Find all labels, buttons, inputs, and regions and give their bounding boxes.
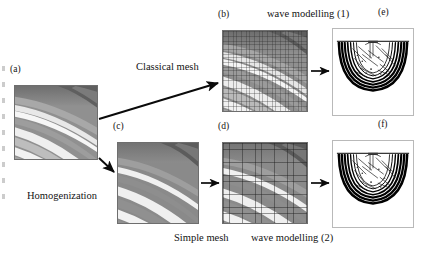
panel-e-wavefield-snapshot: [332, 28, 414, 116]
panel-c-homogenized-model: [117, 142, 199, 224]
label-homogenization: Homogenization: [27, 191, 97, 202]
velocity-model-bands-d: [223, 143, 307, 223]
label-wave-modelling-1: wave modelling (1): [267, 9, 349, 20]
label-wave-modelling-2: wave modelling (2): [251, 233, 333, 244]
velocity-model-bands-b: [223, 31, 307, 111]
panel-letter-f: (f): [378, 120, 388, 130]
velocity-model-bands-c: [118, 143, 198, 223]
panel-letter-d: (d): [218, 122, 229, 132]
wavefield-arcs-e: [333, 29, 413, 115]
panel-d-simple-mesh-model: [222, 142, 308, 224]
panel-letter-c: (c): [113, 122, 124, 132]
panel-letter-e: (e): [378, 8, 389, 18]
label-classical-mesh: Classical mesh: [136, 62, 199, 73]
wavefield-arcs-f: [333, 141, 413, 227]
panel-f-wavefield-snapshot: [332, 140, 414, 228]
velocity-model-bands-a: [15, 86, 97, 159]
arrow-a-to-b: [99, 83, 218, 119]
scan-noise-artifacts: [0, 60, 9, 210]
label-simple-mesh: Simple mesh: [174, 233, 229, 244]
panel-letter-b: (b): [218, 10, 229, 20]
panel-b-classical-mesh-model: [222, 30, 308, 112]
figure-canvas: (a): [0, 0, 426, 255]
panel-a-original-model: [14, 85, 98, 160]
panel-letter-a: (a): [10, 65, 21, 75]
arrow-a-to-c: [99, 158, 114, 172]
